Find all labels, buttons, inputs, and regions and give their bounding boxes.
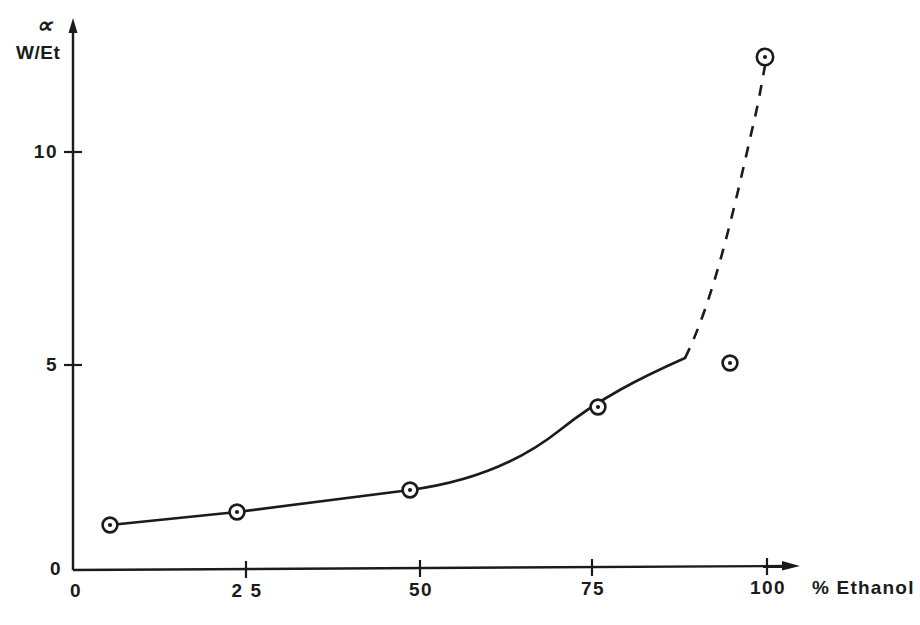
y-tick-label-5: 5 [46,354,58,376]
x-axis-line [73,566,790,570]
x-axis-group [73,558,800,578]
data-point-markers [103,49,774,533]
x-tick-label-50: 50 [409,579,433,601]
x-tick-label-25: 2 5 [232,580,263,602]
marker-center-dot [408,488,412,492]
marker-center-dot [235,510,239,514]
data-point-6 [757,49,773,65]
data-point-1 [103,518,118,533]
up-arrow-icon [69,18,78,33]
data-point-3 [403,483,418,498]
x-tick-label-0: 0 [70,580,82,602]
x-tick-label-75: 75 [581,578,605,600]
marker-center-dot [763,55,767,59]
data-point-4 [591,400,606,415]
plot-canvas [0,0,920,625]
data-curve-solid [110,358,685,525]
marker-center-dot [728,361,732,365]
chart-figure: ∝ W/Et 10 5 0 0 2 5 50 75 100 % Ethanol [0,0,920,625]
right-arrow-icon [782,561,800,571]
x-axis-title: % Ethanol [812,577,915,599]
y-tick-label-10: 10 [34,141,58,163]
y-axis-symbol-label: ∝ [36,12,52,39]
data-curve-dashed [685,66,765,358]
marker-center-dot [596,405,600,409]
marker-center-dot [108,523,112,527]
x-tick-label-100: 100 [750,577,786,599]
y-axis-units-label: W/Et [16,42,60,64]
y-tick-label-0: 0 [50,558,62,580]
y-axis-group [64,18,82,570]
data-point-5 [723,356,738,371]
data-point-2 [230,505,245,520]
